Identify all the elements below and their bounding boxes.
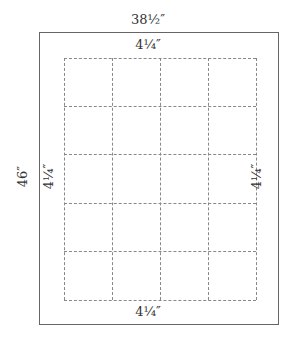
grid-line [208, 58, 209, 300]
grid-line [64, 58, 65, 300]
grid-line [160, 58, 161, 300]
top-margin-label: 4¼″ [0, 38, 296, 51]
outer-height-label: 46″ [16, 166, 29, 187]
grid-line [64, 203, 256, 204]
outer-width-label: 38½″ [0, 13, 296, 26]
grid-line [64, 154, 256, 155]
grid-line [64, 251, 256, 252]
right-margin-label: 4¼″ [250, 164, 263, 190]
grid-line [112, 58, 113, 300]
bottom-margin-label: 4¼″ [0, 305, 296, 318]
dashed-grid [64, 58, 256, 300]
left-margin-label: 4¼″ [42, 164, 55, 190]
grid-line [64, 106, 256, 107]
grid-line [64, 300, 256, 301]
grid-line [64, 58, 256, 59]
